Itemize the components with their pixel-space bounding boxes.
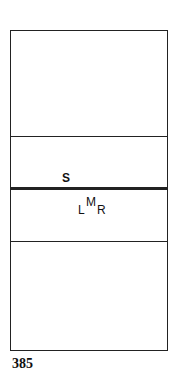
page-number: 385 [12, 356, 33, 372]
label-m: M [86, 196, 96, 208]
label-s: S [62, 172, 70, 184]
label-r: R [97, 204, 106, 216]
divider-center-thick [10, 187, 168, 190]
label-l: L [78, 204, 85, 216]
divider-upper [10, 136, 168, 137]
divider-lower [10, 241, 168, 242]
diagram-frame [10, 30, 168, 351]
